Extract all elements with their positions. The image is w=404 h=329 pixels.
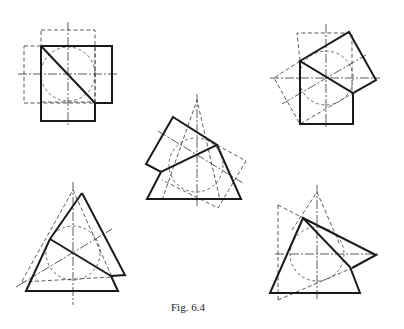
figure-3: [146, 94, 246, 208]
technical-drawing: [0, 0, 404, 329]
figure-4: [16, 182, 125, 305]
figure-5: [270, 185, 380, 301]
figure-2: [270, 24, 380, 128]
figure-1: [18, 22, 117, 127]
figure-caption: Fig. 6.4: [171, 301, 205, 313]
